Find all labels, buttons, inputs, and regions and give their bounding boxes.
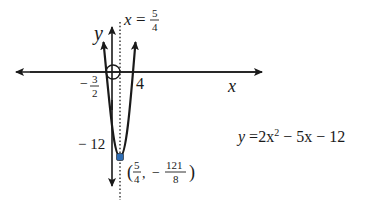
x-axis-label: x — [227, 76, 236, 96]
x-intercept-right-label: 4 — [136, 75, 144, 92]
axis-of-symmetry-label: x = 5 4 — [123, 7, 159, 33]
svg-text:(: ( — [127, 162, 133, 183]
svg-text:121: 121 — [166, 159, 183, 171]
vertex-point — [117, 154, 124, 161]
svg-text:4: 4 — [152, 21, 158, 33]
svg-text:2: 2 — [92, 87, 98, 99]
svg-text:=: = — [136, 10, 146, 29]
x-intercept-left-label: − 3 2 — [80, 73, 99, 99]
y-intercept-label: − 12 — [78, 136, 105, 152]
parabola-graph: y x x = 5 4 − 3 2 4 − 12 ( 5 4 , − 121 8… — [0, 0, 371, 202]
svg-text:5: 5 — [152, 7, 158, 19]
svg-text:−: − — [80, 76, 88, 91]
svg-text:−: − — [152, 165, 160, 180]
svg-text:3: 3 — [92, 73, 98, 85]
svg-text:4: 4 — [134, 173, 140, 185]
svg-text:y =2x2 − 5x − 12: y =2x2 − 5x − 12 — [236, 127, 345, 146]
svg-text:x: x — [123, 10, 132, 29]
svg-text:,: , — [142, 166, 146, 181]
svg-text:8: 8 — [173, 173, 179, 185]
y-axis-label: y — [92, 22, 103, 45]
svg-text:5: 5 — [134, 159, 140, 171]
vertex-label: ( 5 4 , − 121 8 ) — [127, 159, 195, 185]
svg-text:): ) — [189, 162, 195, 183]
equation-label: y =2x2 − 5x − 12 — [236, 127, 345, 146]
